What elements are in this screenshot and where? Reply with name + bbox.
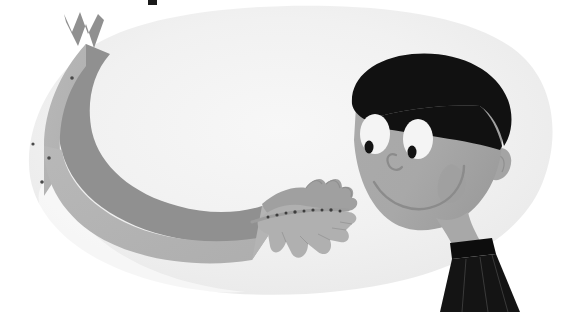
top-edge-mark bbox=[148, 0, 157, 5]
eye-right-sclera bbox=[403, 119, 433, 159]
illustration-canvas: Cartoon child reaching out with outstret… bbox=[0, 0, 570, 312]
cartoon-child-reaching-illustration bbox=[0, 0, 570, 312]
eye-left-pupil bbox=[365, 141, 374, 154]
eye-left-sclera bbox=[360, 114, 390, 154]
eye-right-pupil bbox=[408, 146, 417, 159]
